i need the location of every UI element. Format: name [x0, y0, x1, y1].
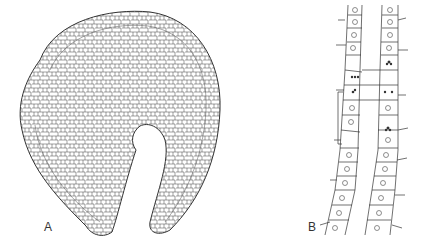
cell-columns-b	[320, 5, 408, 235]
nuclei-b	[333, 8, 393, 231]
panel-label-b: B	[308, 220, 316, 234]
figure: A B	[0, 0, 427, 240]
panel-label-a: A	[44, 220, 52, 234]
panel-b-drawing	[0, 0, 427, 240]
